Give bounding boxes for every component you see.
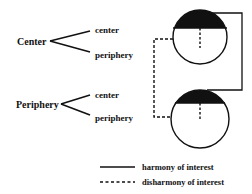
branch-label-center: center <box>95 90 119 100</box>
bottom-circle-node <box>171 90 229 148</box>
center-periphery-diagram: Center center periphery Periphery center… <box>0 0 252 194</box>
group-label-periphery: Periphery <box>16 99 59 110</box>
branch-label-periphery: periphery <box>95 113 133 123</box>
branch-line-upper <box>50 31 90 41</box>
branch-label-periphery: periphery <box>95 50 133 60</box>
legend: harmony of interest disharmony of intere… <box>100 162 224 187</box>
legend-label-disharmony: disharmony of interest <box>142 177 224 187</box>
disharmony-connector <box>154 39 173 117</box>
branch-line-lower <box>61 104 90 115</box>
branch-line-upper <box>61 95 90 104</box>
branch-line-lower <box>50 41 90 52</box>
branch-label-center: center <box>95 25 119 35</box>
legend-label-harmony: harmony of interest <box>142 162 214 172</box>
group-label-center: Center <box>17 36 47 47</box>
top-circle-node <box>173 10 227 64</box>
group-center: Center center periphery <box>17 25 133 60</box>
group-periphery: Periphery center periphery <box>16 90 133 123</box>
